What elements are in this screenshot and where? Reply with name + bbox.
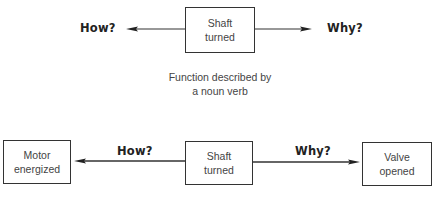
caption-line-1: Function described by	[150, 70, 290, 84]
bottom-why-arrow	[252, 160, 360, 165]
box-line-2: energized	[14, 162, 60, 176]
top-shaft-turned-box: Shaft turned	[185, 7, 255, 53]
top-why-label: Why?	[327, 21, 363, 35]
box-line-1: Shaft	[207, 149, 232, 163]
bottom-how-arrow	[74, 159, 185, 164]
box-line-1: Motor	[24, 148, 51, 162]
valve-opened-box: Valve opened	[362, 142, 432, 186]
box-line-2: turned	[205, 30, 235, 44]
top-how-label: How?	[80, 21, 116, 35]
box-line-2: turned	[204, 163, 234, 177]
box-line-2: opened	[379, 164, 414, 178]
function-caption: Function described by a noun verb	[150, 70, 290, 98]
box-line-1: Valve	[384, 150, 410, 164]
top-how-arrow	[126, 27, 185, 32]
caption-line-2: a noun verb	[150, 84, 290, 98]
bottom-how-label: How?	[117, 144, 153, 158]
motor-energized-box: Motor energized	[3, 140, 71, 184]
bottom-why-label: Why?	[295, 144, 331, 158]
box-line-1: Shaft	[208, 16, 233, 30]
top-why-arrow	[254, 27, 312, 32]
bottom-shaft-turned-box: Shaft turned	[185, 141, 253, 185]
